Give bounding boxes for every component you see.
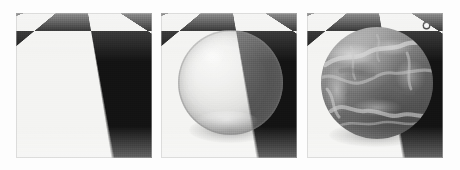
marble-vein-texture <box>321 27 433 139</box>
refraction-caustic <box>195 111 259 133</box>
floor-perspective-wrapper <box>16 13 152 158</box>
scene-checkerboard <box>16 13 152 158</box>
opaque-marble-sphere <box>321 27 433 139</box>
specular-highlight-marker <box>424 23 429 28</box>
scene-translucent-sphere <box>161 13 297 158</box>
figure-caption <box>0 0 1 1</box>
marble-vein-svg <box>321 27 433 139</box>
panel-opaque-marble-sphere[interactable] <box>307 13 443 158</box>
sphere-specular-highlight <box>199 47 225 65</box>
panel-checkerboard-floor[interactable] <box>16 13 152 158</box>
figure-container <box>0 0 460 170</box>
panel-translucent-sphere[interactable] <box>161 13 297 158</box>
scene-marble-sphere <box>307 13 443 158</box>
